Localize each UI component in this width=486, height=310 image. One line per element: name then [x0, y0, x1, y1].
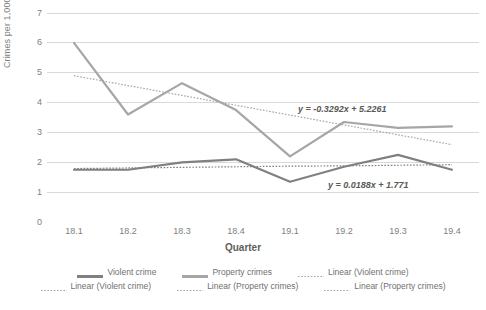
y-axis-tick-label: 2 [24, 158, 42, 167]
crime-rate-line-chart: Crimes per 1,000 persons 01234567 18.118… [0, 0, 486, 310]
x-axis-tick-label: 19.3 [371, 226, 425, 237]
legend-item[interactable]: Linear (Property crimes) [324, 279, 445, 293]
x-axis-tick-label: 19.4 [425, 226, 479, 237]
legend-swatch [77, 267, 103, 276]
legend-row: Violent crimeProperty crimesLinear (Viol… [0, 264, 486, 279]
plot-area [47, 13, 479, 222]
x-axis-tick-label: 19.1 [263, 226, 317, 237]
legend-item[interactable]: Linear (Violent crime) [41, 279, 152, 293]
x-axis-tick-label: 18.2 [101, 226, 155, 237]
legend-swatch [298, 267, 324, 276]
legend-label: Violent crime [107, 267, 156, 277]
y-axis-tick-labels: 01234567 [24, 0, 42, 240]
y-axis-tick-label: 1 [24, 188, 42, 197]
legend-label: Linear (Property crimes) [207, 281, 298, 291]
legend-item[interactable]: Violent crime [77, 265, 156, 279]
series-line [74, 155, 452, 182]
legend-label: Linear (Violent crime) [328, 267, 409, 277]
x-axis-tick-label: 18.3 [155, 226, 209, 237]
property-trendline-equation-label: y = -0.3292x + 5.2261 [298, 104, 387, 114]
legend-row: Linear (Violent crime)Linear (Property c… [0, 278, 486, 293]
series-line [74, 165, 452, 169]
legend-swatch [177, 281, 203, 290]
legend-swatch [41, 281, 67, 290]
plot-svg [47, 13, 479, 222]
legend-item[interactable]: Linear (Violent crime) [298, 265, 409, 279]
legend-label: Linear (Property crimes) [354, 281, 445, 291]
y-axis-tick-label: 7 [24, 9, 42, 18]
y-axis-tick-label: 0 [24, 218, 42, 227]
x-axis-title: Quarter [0, 242, 486, 253]
x-axis-tick-label: 18.1 [47, 226, 101, 237]
legend-label: Property crimes [212, 267, 272, 277]
y-axis-tick-label: 4 [24, 98, 42, 107]
legend-swatch [182, 267, 208, 276]
y-axis-tick-label: 3 [24, 128, 42, 137]
y-axis-tick-label: 5 [24, 68, 42, 77]
chart-legend: Violent crimeProperty crimesLinear (Viol… [0, 262, 486, 298]
x-axis-tick-label: 18.4 [209, 226, 263, 237]
y-axis-tick-label: 6 [24, 38, 42, 47]
x-axis-tick-labels: 18.118.218.318.419.119.219.319.4 [47, 226, 479, 240]
legend-item[interactable]: Linear (Property crimes) [177, 279, 298, 293]
legend-swatch [324, 281, 350, 290]
violent-trendline-equation-label: y = 0.0188x + 1.771 [328, 180, 409, 190]
x-axis-tick-label: 19.2 [317, 226, 371, 237]
legend-label: Linear (Violent crime) [71, 281, 152, 291]
y-axis-title: Crimes per 1,000 persons [2, 0, 12, 68]
series-line [74, 43, 452, 156]
legend-item[interactable]: Property crimes [182, 265, 272, 279]
